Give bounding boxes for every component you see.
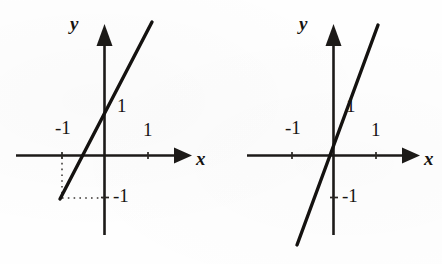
x-axis-arrow-left bbox=[174, 148, 192, 164]
x-tick-label-negative-one-right: -1 bbox=[285, 118, 300, 137]
y-tick-label-negative-one-right: -1 bbox=[342, 186, 357, 205]
y-tick-label-positive-one-left: 1 bbox=[117, 96, 126, 115]
y-axis-arrow-right bbox=[326, 24, 342, 46]
x-tick-label-positive-one-right: 1 bbox=[371, 120, 380, 139]
x-axis-label-left: x bbox=[196, 149, 206, 168]
x-tick-label-positive-one-left: 1 bbox=[143, 120, 152, 139]
y-tick-label-positive-one-right: 1 bbox=[346, 96, 355, 115]
graph-panel-left: y x 1 -1 1 -1 bbox=[0, 0, 221, 264]
coordinate-plane-left bbox=[0, 0, 221, 264]
coordinate-plane-right bbox=[221, 0, 442, 264]
function-line-left bbox=[60, 22, 152, 199]
y-axis-label-right: y bbox=[299, 14, 307, 33]
y-axis-label-left: y bbox=[70, 14, 78, 33]
graph-panel-right: y x 1 -1 1 -1 bbox=[221, 0, 442, 264]
x-axis-arrow-right bbox=[402, 148, 420, 164]
x-axis-label-right: x bbox=[424, 149, 434, 168]
x-tick-label-negative-one-left: -1 bbox=[55, 118, 70, 137]
figure-root: y x 1 -1 1 -1 y x 1 -1 1 -1 bbox=[0, 0, 442, 264]
y-axis-arrow-left bbox=[97, 24, 113, 46]
y-tick-label-negative-one-left: -1 bbox=[113, 186, 128, 205]
function-line-right bbox=[297, 25, 378, 245]
